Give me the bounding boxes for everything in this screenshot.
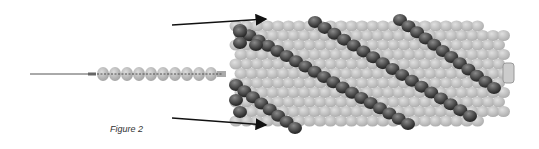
figure-canvas: Figure 2 [0, 0, 539, 149]
dark-bead [487, 82, 501, 94]
beading-diagram [0, 0, 539, 149]
dark-bead [288, 122, 302, 134]
dark-bead [401, 118, 415, 130]
figure-caption: Figure 2 [110, 124, 143, 134]
bead-strand [30, 67, 226, 81]
spiral-bead-tube [229, 14, 514, 134]
dark-bead [463, 110, 477, 122]
